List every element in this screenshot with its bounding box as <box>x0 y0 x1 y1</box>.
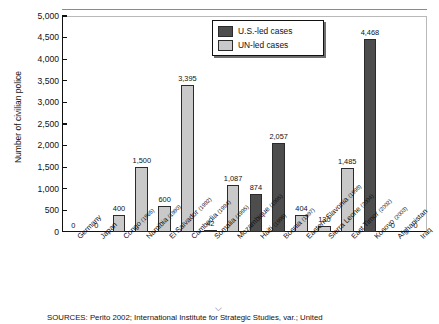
x-axis-label: Iraq <box>419 226 434 241</box>
x-axis-label: Germany <box>76 213 103 240</box>
legend-item-us-led: U.S.-led cases <box>218 25 318 37</box>
legend-item-un-led: UN-led cases <box>218 39 318 51</box>
legend-label-us-led: U.S.-led cases <box>238 27 292 36</box>
legend-swatch-us-led-icon <box>218 26 233 37</box>
chart-legend: U.S.-led cases UN-led cases <box>212 20 324 56</box>
legend-label-un-led: UN-led cases <box>238 41 288 50</box>
civilian-police-bar-chart: Number of civilian police 5,0004,5004,00… <box>0 0 439 324</box>
source-note: SOURCES: Perito 2002; International Inst… <box>47 313 439 322</box>
legend-swatch-un-led-icon <box>218 40 233 51</box>
x-axis-label: Japan <box>99 221 119 241</box>
